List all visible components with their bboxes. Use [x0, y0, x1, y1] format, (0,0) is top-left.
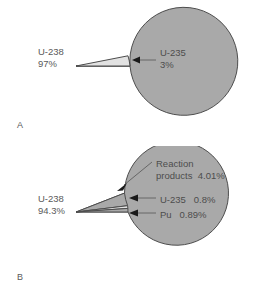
pie-a-callout-label-u235: U-2353%: [160, 47, 186, 70]
pie-b-callout-label-pu: Pu 0.89%: [160, 209, 206, 221]
figure-container: U-23897% U-2353% A U-23894.3% Reactionpr…: [0, 0, 255, 293]
pie-a-center-label-line1: U-238: [38, 46, 64, 57]
pie-b-callout-label-reaction-products-line2: products 4.01%: [156, 170, 225, 181]
panel-letter-a: A: [17, 120, 23, 130]
pie-a-callout-label-u235-line2: 3%: [160, 59, 174, 70]
pie-a-center-label: U-23897%: [38, 46, 64, 69]
pie-a-slice-u235: [76, 56, 130, 66]
pie-a-center-label-line2: 97%: [38, 58, 57, 69]
pie-b-center-label: U-23894.3%: [38, 193, 65, 216]
pie-b-callout-label-reaction-products: Reactionproducts 4.01%: [156, 158, 225, 181]
pie-b-callout-label-u235: U-235 0.8%: [160, 194, 215, 206]
panel-letter-b: B: [17, 272, 23, 282]
pie-a-callout-label-u235-line1: U-235: [160, 47, 186, 58]
pie-b-callout-label-reaction-products-line1: Reaction: [156, 158, 194, 169]
pie-chart-a: [0, 0, 255, 146]
pie-b-center-label-line1: U-238: [38, 193, 64, 204]
pie-b-center-label-line2: 94.3%: [38, 205, 65, 216]
